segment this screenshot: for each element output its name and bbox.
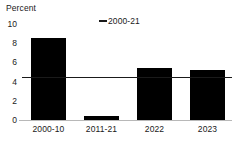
x-axis-baseline	[19, 120, 232, 121]
reference-line-2000-21	[22, 77, 232, 79]
x-axis-tick-label: 2023	[177, 124, 236, 134]
y-axis-tick-label: 4	[12, 78, 17, 86]
bar-group	[22, 24, 232, 120]
bar-chart: Percent 2000-21 0 2 4 6 8 10	[0, 0, 236, 144]
bar-2000-10	[31, 38, 66, 120]
y-axis-unit-title: Percent	[6, 3, 36, 13]
x-axis-tick-label: 2000-10	[18, 124, 79, 134]
y-axis-tick-label: 2	[12, 97, 17, 105]
y-axis-tick-label: 6	[12, 58, 17, 66]
y-axis-tick-label: 0	[12, 116, 17, 124]
y-axis-tick-label: 8	[12, 39, 17, 47]
bar-slot	[31, 24, 66, 120]
y-axis-tick-label: 10	[8, 20, 17, 28]
bar-slot	[137, 24, 172, 120]
x-axis-tick-label: 2011-21	[71, 124, 132, 134]
bar-2011-21	[84, 116, 119, 120]
x-axis-tick-label: 2022	[124, 124, 185, 134]
plot-area: 0 2 4 6 8 10 2000-10 2011-21 2022 2023	[22, 24, 232, 120]
bar-slot	[190, 24, 225, 120]
bar-slot	[84, 24, 119, 120]
line-dash-marker-icon	[99, 20, 107, 22]
